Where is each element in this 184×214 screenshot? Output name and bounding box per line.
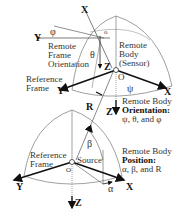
psi-angle-label: ψ: [127, 83, 134, 94]
bottom-reference-frame-label-2: Frame: [30, 159, 53, 169]
orientation-caption-3: ψ, θ, and φ: [122, 114, 161, 124]
bottom-z-axis-label: Z: [75, 197, 82, 208]
remote-body-label-3: (Sensor): [119, 58, 150, 68]
remote-frame-label-3: Orientation: [48, 59, 89, 69]
top-reference-frame-label-2: Frame: [26, 83, 49, 93]
orientation-position-diagram: X Y φ o Remote Frame Orientation θ Z Rem…: [0, 0, 184, 214]
beta-angle-label: β: [87, 138, 92, 149]
remote-x-axis-label: X: [81, 4, 89, 15]
alpha-angle-label: α: [108, 183, 114, 194]
bottom-x-axis-label: X: [126, 181, 134, 192]
position-caption-3: α, β, and R: [122, 164, 162, 174]
source-label: Source: [77, 155, 102, 165]
remote-y-axis-label: Y: [34, 32, 42, 43]
top-y-axis-label: Y: [57, 85, 65, 96]
top-z-axis-label: Z: [106, 106, 113, 117]
bottom-y-axis-label: Y: [16, 181, 24, 192]
remote-z-axis-label: Z: [104, 61, 111, 72]
top-apex-marker: o: [104, 28, 108, 36]
range-label: R: [86, 101, 94, 112]
phi-angle-label: φ: [50, 26, 56, 37]
top-origin-label: O: [118, 72, 125, 82]
bottom-origin-label: O: [66, 166, 71, 174]
theta-angle-label: θ: [90, 49, 95, 60]
